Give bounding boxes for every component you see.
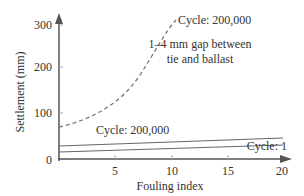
solid-upper-series-label: Cycle: 200,000 xyxy=(96,123,169,137)
gap-annotation-line2: tie and ballast xyxy=(167,52,234,66)
dashed-series-label: Cycle: 200,000 xyxy=(178,13,251,27)
y-axis-arrow-icon xyxy=(55,13,63,24)
y-tick-label-300: 300 xyxy=(34,18,52,32)
x-tick-label-20: 20 xyxy=(276,164,288,178)
gap-annotation-line1: 1–4 mm gap between xyxy=(149,37,252,51)
x-axis-arrow-icon xyxy=(280,155,292,163)
y-axis-title: Settlement (mm) xyxy=(13,52,27,133)
x-tick-label-15: 15 xyxy=(222,164,234,178)
x-tick-label-10: 10 xyxy=(166,164,178,178)
y-tick-label-0: 0 xyxy=(46,153,52,167)
x-axis-title: Fouling index xyxy=(136,179,203,193)
y-tick-label-200: 200 xyxy=(34,60,52,74)
x-tick-label-5: 5 xyxy=(112,164,118,178)
y-tick-label-100: 100 xyxy=(34,106,52,120)
solid-lower-series-label: Cycle: 1 xyxy=(247,139,287,153)
chart: 300 200 100 0 5 10 15 20 Fouling index S… xyxy=(0,0,304,196)
